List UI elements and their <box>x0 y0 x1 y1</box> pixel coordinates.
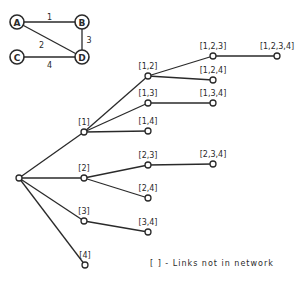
tree-edge <box>84 131 148 132</box>
network-link-label: 1 <box>47 13 52 22</box>
tree-node <box>145 162 151 168</box>
tree-node-label: [1,2,4] <box>200 66 227 75</box>
tree-node-label: [2,4] <box>139 184 158 193</box>
tree-node-label: [1,2,3,4] <box>260 42 294 51</box>
diagram-canvas: 1234 ABCD [1][2][3][4][1,2][1,3][1,4][2,… <box>0 0 307 284</box>
tree-edge <box>84 165 148 178</box>
tree-node <box>145 229 151 235</box>
tree-node-label: [2,3] <box>139 151 158 160</box>
tree-node <box>145 195 151 201</box>
tree-node <box>274 53 280 59</box>
tree-node-label: [1] <box>78 118 89 127</box>
tree-node-label: [3] <box>78 207 89 216</box>
tree-node <box>210 77 216 83</box>
network-link-label: 3 <box>86 36 91 45</box>
network-link-label: 2 <box>39 41 44 50</box>
tree-node <box>145 128 151 134</box>
tree-node-label: [4] <box>79 251 90 260</box>
tree-node <box>81 129 87 135</box>
network-node-label: A <box>14 18 21 28</box>
network-node-label: D <box>78 53 85 63</box>
network-link-label: 4 <box>47 61 52 70</box>
tree-node-label: [2] <box>78 164 89 173</box>
tree-node <box>145 73 151 79</box>
tree-node <box>210 100 216 106</box>
network-node-label: B <box>79 18 86 28</box>
tree-node <box>82 262 88 268</box>
tree-edge <box>19 132 84 178</box>
tree-node-label: [1,3,4] <box>200 89 227 98</box>
tree-edge <box>19 178 85 265</box>
tree-node-label: [1,3] <box>139 89 158 98</box>
tree-edge <box>148 76 213 80</box>
tree-edge <box>19 178 84 221</box>
tree-node <box>210 161 216 167</box>
network-link-2 <box>17 22 82 57</box>
tree-node <box>145 100 151 106</box>
tree-node <box>81 218 87 224</box>
tree-node-label: [3,4] <box>139 218 158 227</box>
tree-node <box>81 175 87 181</box>
tree-node-label: [2,3,4] <box>200 150 227 159</box>
tree-edge <box>148 164 213 165</box>
tree-node-label: [1,2,3] <box>200 42 227 51</box>
tree-node <box>210 53 216 59</box>
tree-node-label: [1,4] <box>139 117 158 126</box>
legend: [ ] - Links not in network <box>150 259 274 268</box>
tree-node-label: [1,2] <box>139 62 158 71</box>
tree-node-root <box>16 175 22 181</box>
network-node-label: C <box>14 53 21 63</box>
